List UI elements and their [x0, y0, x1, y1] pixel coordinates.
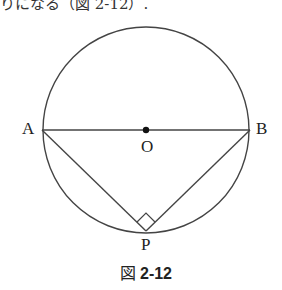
label-B: B [256, 119, 267, 139]
chord-AP [42, 130, 146, 231]
figure-caption: 図 2-12 [0, 260, 282, 284]
label-O: O [141, 137, 153, 157]
right-angle-marker [137, 213, 155, 222]
label-A: A [22, 119, 34, 139]
label-P: P [141, 235, 150, 255]
chord-BP [146, 130, 250, 231]
caption-number: 2-12 [140, 265, 172, 282]
caption-prefix: 図 [120, 265, 136, 282]
center-point-O [143, 127, 149, 133]
